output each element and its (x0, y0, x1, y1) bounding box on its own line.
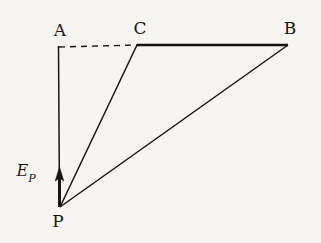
vector-diagram (0, 0, 321, 243)
vertex-label-c: C (133, 20, 146, 37)
segment-a-c (59, 45, 137, 47)
field-symbol: E (16, 161, 28, 180)
segment-p-c (60, 45, 137, 207)
field-subscript: P (28, 172, 35, 185)
figure-canvas: A C B P EP (0, 0, 321, 243)
vertex-label-a: A (54, 22, 66, 39)
vertex-label-b: B (284, 20, 297, 37)
vertex-label-p: P (52, 213, 64, 230)
field-vector-label: EP (16, 163, 35, 185)
segment-p-b (60, 45, 288, 207)
